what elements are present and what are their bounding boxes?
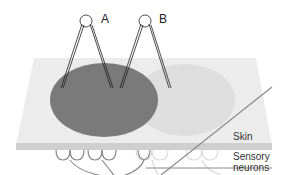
neurons-label-line2: neurons <box>233 162 269 173</box>
skin-edge <box>16 143 272 150</box>
skin-label: Skin <box>233 131 252 142</box>
probe-b-label: B <box>159 14 167 25</box>
probe-a-label: A <box>101 14 109 25</box>
receptive-field-a <box>50 63 158 137</box>
neurons-label-line1: Sensory <box>233 151 270 162</box>
receptive-field-diagram <box>0 0 286 175</box>
